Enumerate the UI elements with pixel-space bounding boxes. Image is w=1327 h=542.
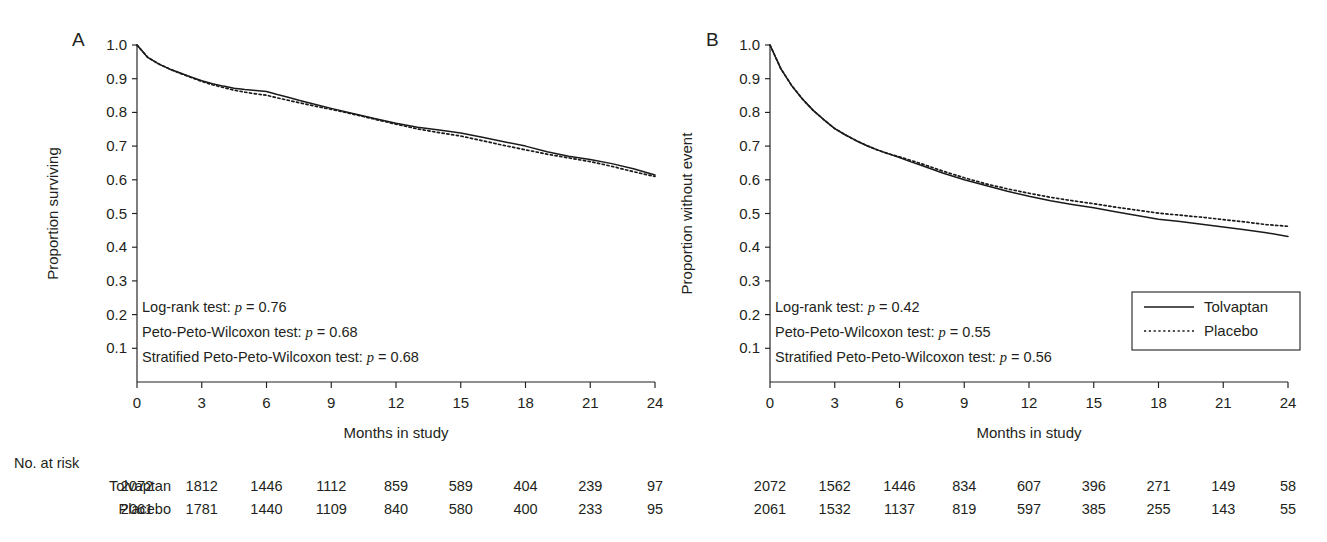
risk-value-a-tolvaptan: 1112: [316, 478, 346, 494]
risk-value-a-placebo: 1781: [186, 501, 218, 517]
annotation-label: Peto-Peto-Wilcoxon test:: [142, 324, 306, 340]
risk-value-b-tolvaptan: 834: [952, 478, 976, 494]
y-tick-label-A: 0.2: [106, 306, 127, 323]
risk-value-b-tolvaptan: 607: [1017, 478, 1041, 494]
x-tick-label-A: 24: [647, 394, 664, 411]
y-tick-label-B: 0.6: [739, 171, 760, 188]
risk-value-a-placebo: 95: [647, 501, 663, 517]
risk-value-b-placebo: 255: [1146, 501, 1170, 517]
x-tick-label-B: 12: [1021, 394, 1038, 411]
risk-value-b-placebo: 2061: [754, 501, 786, 517]
x-tick-label-B: 18: [1150, 394, 1167, 411]
y-tick-label-B: 0.8: [739, 103, 760, 120]
y-tick-label-A: 1.0: [106, 36, 127, 53]
x-tick-label-A: 21: [582, 394, 599, 411]
annotation-value: = 0.55: [946, 324, 991, 340]
y-tick-label-B: 1.0: [739, 36, 760, 53]
risk-value-a-tolvaptan: 239: [578, 478, 602, 494]
risk-value-b-tolvaptan: 271: [1146, 478, 1170, 494]
y-tick-label-B: 0.4: [739, 238, 760, 255]
y-tick-label-B: 0.7: [739, 137, 760, 154]
annotation-label: Stratified Peto-Peto-Wilcoxon test:: [775, 349, 1000, 365]
annotation-A-2: Peto-Peto-Wilcoxon test: p = 0.68: [142, 324, 358, 340]
y-axis-title-B: Proportion without event: [678, 132, 695, 295]
risk-value-b-placebo: 597: [1017, 501, 1041, 517]
y-tick-label-B: 0.3: [739, 272, 760, 289]
annotation-p-symbol: p: [366, 349, 374, 365]
annotation-label: Log-rank test:: [142, 299, 235, 315]
annotation-p-symbol: p: [305, 324, 313, 340]
risk-value-b-placebo: 1532: [819, 501, 851, 517]
annotation-B-3: Stratified Peto-Peto-Wilcoxon test: p = …: [775, 349, 1052, 365]
y-tick-label-A: 0.7: [106, 137, 127, 154]
panel-letter-A: A: [72, 29, 85, 50]
curve-B-placebo: [770, 45, 1288, 226]
annotation-p-symbol: p: [938, 324, 946, 340]
curve-A-tolvaptan: [137, 45, 655, 175]
x-tick-label-A: 15: [452, 394, 469, 411]
risk-value-b-placebo: 143: [1211, 501, 1235, 517]
x-axis-title-B: Months in study: [976, 424, 1082, 441]
risk-value-b-placebo: 55: [1280, 501, 1296, 517]
risk-value-a-placebo: 233: [578, 501, 602, 517]
y-tick-label-A: 0.9: [106, 70, 127, 87]
y-tick-label-B: 0.9: [739, 70, 760, 87]
annotation-value: = 0.68: [313, 324, 358, 340]
annotation-B-2: Peto-Peto-Wilcoxon test: p = 0.55: [775, 324, 991, 340]
panel-letter-B: B: [706, 29, 719, 50]
curve-A-placebo: [137, 45, 655, 176]
x-tick-label-B: 15: [1085, 394, 1102, 411]
x-tick-label-A: 12: [388, 394, 405, 411]
x-tick-label-A: 0: [133, 394, 141, 411]
y-tick-label-B: 0.1: [739, 339, 760, 356]
risk-value-a-tolvaptan: 404: [513, 478, 537, 494]
x-tick-label-A: 9: [327, 394, 335, 411]
risk-value-a-placebo: 1109: [316, 501, 347, 517]
risk-value-a-tolvaptan: 1812: [186, 478, 218, 494]
annotation-p-symbol: p: [867, 299, 875, 315]
y-tick-label-A: 0.5: [106, 205, 127, 222]
curve-B-tolvaptan: [770, 45, 1288, 236]
annotation-A-3: Stratified Peto-Peto-Wilcoxon test: p = …: [142, 349, 419, 365]
annotation-value: = 0.56: [1007, 349, 1052, 365]
y-axis-title-A: Proportion surviving: [44, 147, 61, 280]
annotation-label: Peto-Peto-Wilcoxon test:: [775, 324, 939, 340]
risk-value-a-placebo: 840: [384, 501, 408, 517]
y-tick-label-A: 0.8: [106, 103, 127, 120]
risk-value-b-placebo: 385: [1082, 501, 1106, 517]
y-tick-label-B: 0.5: [739, 205, 760, 222]
x-tick-label-A: 18: [517, 394, 534, 411]
risk-value-a-tolvaptan: 859: [384, 478, 408, 494]
annotation-B-1: Log-rank test: p = 0.42: [775, 299, 920, 315]
x-tick-label-A: 3: [198, 394, 206, 411]
kaplan-meier-figure: A0.10.20.30.40.50.60.70.80.91.0036912151…: [0, 0, 1327, 542]
figure-canvas: A0.10.20.30.40.50.60.70.80.91.0036912151…: [0, 0, 1327, 542]
annotation-label: Log-rank test:: [775, 299, 868, 315]
y-tick-label-A: 0.1: [106, 339, 127, 356]
risk-value-a-placebo: 1440: [250, 501, 282, 517]
risk-value-b-tolvaptan: 1446: [883, 478, 915, 494]
x-tick-label-B: 24: [1280, 394, 1297, 411]
x-tick-label-B: 21: [1215, 394, 1232, 411]
risk-value-a-placebo: 2061: [121, 501, 153, 517]
risk-value-a-tolvaptan: 97: [647, 478, 663, 494]
risk-value-b-placebo: 819: [952, 501, 976, 517]
risk-value-a-tolvaptan: 589: [449, 478, 473, 494]
y-tick-label-A: 0.6: [106, 171, 127, 188]
risk-value-b-placebo: 1137: [884, 501, 915, 517]
x-axis-title-A: Months in study: [343, 424, 449, 441]
risk-table-heading: No. at risk: [14, 455, 80, 471]
annotation-value: = 0.68: [374, 349, 419, 365]
y-tick-label-A: 0.4: [106, 238, 127, 255]
risk-value-b-tolvaptan: 1562: [819, 478, 851, 494]
y-tick-label-A: 0.3: [106, 272, 127, 289]
x-tick-label-B: 6: [895, 394, 903, 411]
annotation-A-1: Log-rank test: p = 0.76: [142, 299, 287, 315]
annotation-label: Stratified Peto-Peto-Wilcoxon test:: [142, 349, 367, 365]
risk-value-a-tolvaptan: 1446: [250, 478, 282, 494]
risk-value-b-tolvaptan: 58: [1280, 478, 1296, 494]
legend-label-tolvaptan: Tolvaptan: [1204, 298, 1268, 315]
risk-value-a-tolvaptan: 2072: [121, 478, 153, 494]
risk-value-b-tolvaptan: 149: [1211, 478, 1235, 494]
annotation-value: = 0.42: [875, 299, 920, 315]
